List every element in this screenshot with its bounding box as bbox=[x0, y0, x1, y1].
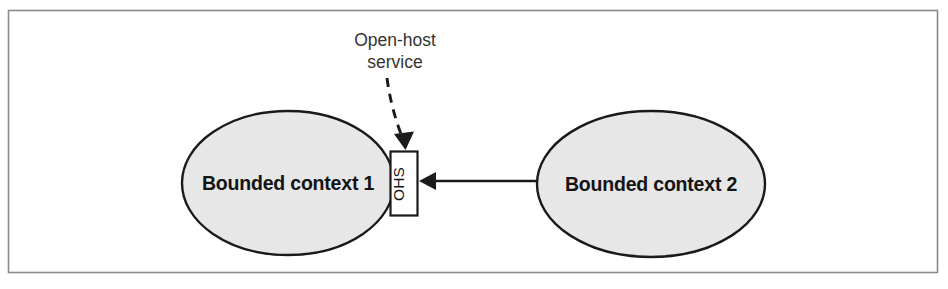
diagram-canvas: Bounded context 1 Bounded context 2 OHS … bbox=[0, 0, 948, 289]
bounded-context-2-label: Bounded context 2 bbox=[565, 173, 737, 195]
dashed-leader-line bbox=[387, 78, 403, 139]
ohs-port-label: OHS bbox=[390, 167, 407, 201]
left-arrow-icon bbox=[419, 172, 436, 190]
open-host-service-diagram: Bounded context 1 Bounded context 2 OHS … bbox=[0, 0, 948, 289]
figure-border bbox=[9, 11, 938, 273]
annotation-line-2: service bbox=[367, 52, 422, 72]
annotation-line-1: Open-host bbox=[354, 30, 436, 50]
bounded-context-1-label: Bounded context 1 bbox=[202, 172, 374, 194]
dashed-leader-arrow-icon bbox=[394, 132, 414, 151]
